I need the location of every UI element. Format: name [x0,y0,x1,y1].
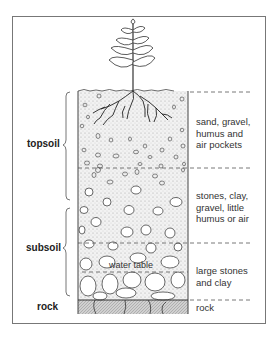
desc-layer-3-line-1: large stones [196,265,248,277]
subsoil-bracket [63,208,70,296]
plant [109,19,155,91]
desc-layer-2-line-3: humus or air [196,213,249,225]
desc-layer-4: rock [196,302,214,314]
desc-layer-1-line-2: humus and [196,128,250,140]
desc-layer-2: stones, clay, gravel, little humus or ai… [196,190,249,225]
brackets [63,92,70,296]
desc-layer-1: sand, gravel, humus and air pockets [196,116,250,151]
label-rock: rock [37,301,58,313]
desc-layer-3: large stones and clay [196,265,248,288]
desc-layer-2-line-1: stones, clay, [196,190,249,202]
desc-layer-1-line-3: air pockets [196,139,250,151]
desc-layer-3-line-2: and clay [196,277,248,289]
label-topsoil: topsoil [27,138,60,150]
desc-layer-1-line-1: sand, gravel, [196,116,250,128]
label-water-table: water table [109,260,153,270]
desc-layer-2-line-2: gravel, little [196,202,249,214]
label-subsoil: subsoil [26,242,61,254]
topsoil-bracket [63,92,70,200]
